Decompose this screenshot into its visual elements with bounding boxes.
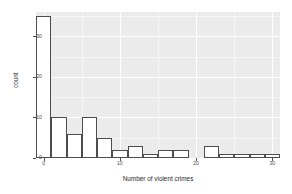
histogram-chart: 0102030 count 0102030 Number of violent … [0,0,292,194]
y-axis-tick-label: 10 [24,115,42,120]
histogram-bar [158,150,173,158]
histogram-bar [250,154,265,158]
histogram-bar [112,150,127,158]
histogram-bar [128,146,143,158]
gridline-vertical-major [120,12,121,158]
x-axis-tick-label: 20 [186,161,206,166]
histogram-bar [67,134,82,158]
y-axis-tick-label: 0 [24,155,42,160]
histogram-bar [97,138,112,158]
histogram-bar [219,154,234,158]
histogram-bar [82,117,97,158]
plot-panel [36,12,280,158]
x-axis-tick-label: 0 [34,161,54,166]
x-axis-tick-label: 10 [110,161,130,166]
x-axis-tick-label: 30 [262,161,282,166]
histogram-bar [234,154,249,158]
y-axis-tick-label: 20 [24,74,42,79]
gridline-vertical-major [272,12,273,158]
gridline-vertical-major [196,12,197,158]
histogram-bar [51,117,66,158]
histogram-bar [173,150,188,158]
gridline-vertical-minor [158,12,159,158]
x-axis-title: Number of violent crimes [36,176,280,182]
y-axis-title: count [13,50,19,110]
gridline-vertical-minor [234,12,235,158]
histogram-bar [143,154,158,158]
histogram-bar [204,146,219,158]
y-axis-tick-label: 30 [24,34,42,39]
